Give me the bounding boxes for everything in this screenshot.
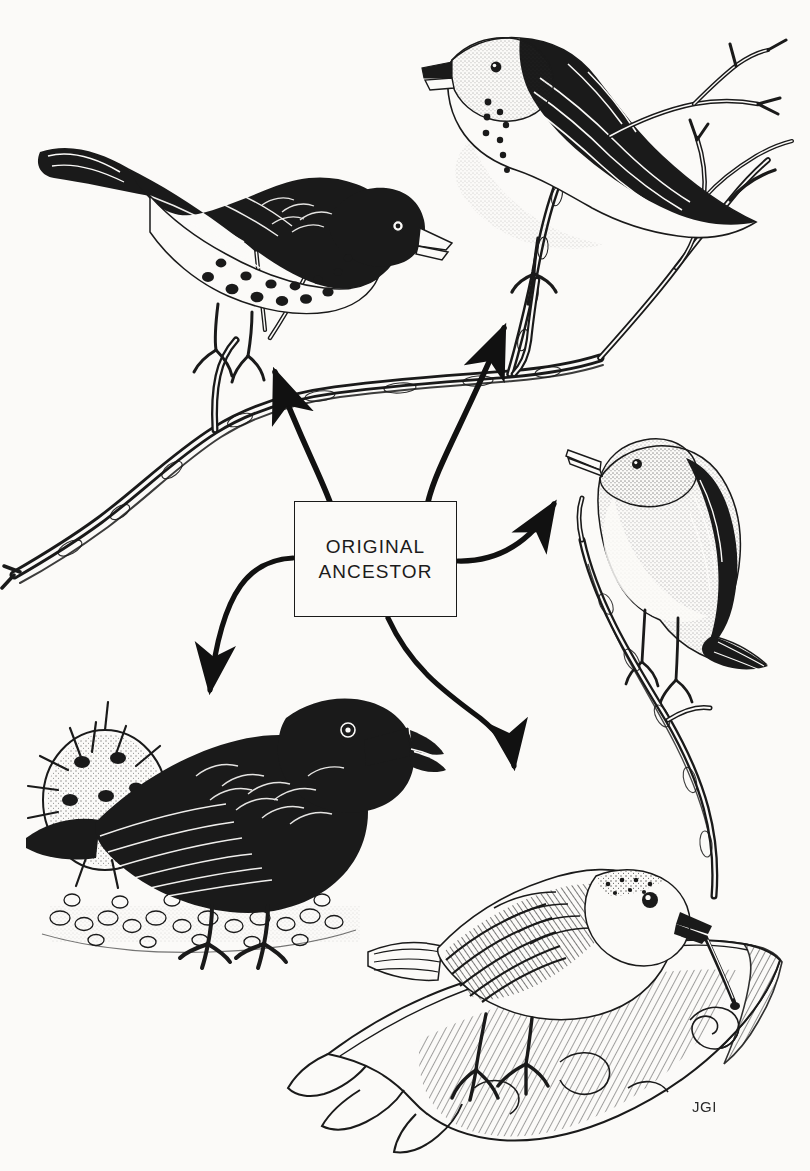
artist-signature: JGI (692, 1098, 717, 1115)
figure-canvas: ORIGINAL ANCESTOR JGI (0, 0, 810, 1171)
ancestor-label-line1: ORIGINAL (326, 534, 426, 559)
original-ancestor-box: ORIGINAL ANCESTOR (294, 501, 457, 617)
ancestor-label-line2: ANCESTOR (318, 559, 432, 584)
